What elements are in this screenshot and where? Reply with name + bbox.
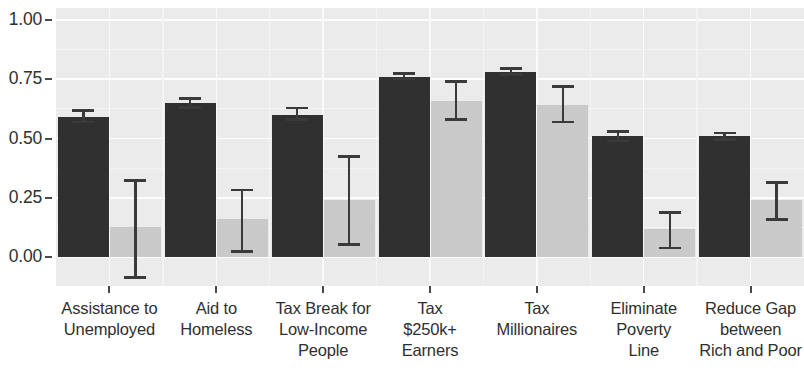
x-tick-mark xyxy=(536,286,538,293)
error-bar-cap-bottom xyxy=(766,218,788,221)
error-bar-cap-top xyxy=(179,97,201,100)
error-bar-dark-5 xyxy=(607,130,629,142)
gridline-vertical-minor xyxy=(269,8,270,286)
error-bar-cap-top xyxy=(714,132,736,135)
error-bar-stem xyxy=(669,211,671,249)
bar-dark-2 xyxy=(272,115,323,258)
y-tick-label-0.00: 0.00 xyxy=(9,249,42,267)
y-axis: 0.000.250.500.751.00 xyxy=(0,0,56,290)
error-bar-light-3 xyxy=(445,80,467,120)
x-tick-label-5: EliminatePovertyLine xyxy=(610,298,677,361)
x-tick-mark xyxy=(429,286,431,293)
x-tick-label-line: Earners xyxy=(402,340,459,361)
x-tick-label-line: Eliminate xyxy=(610,298,677,319)
error-bar-cap-top xyxy=(124,179,146,182)
gridline-vertical-minor xyxy=(162,8,163,286)
x-tick-label-4: TaxMillionaires xyxy=(496,298,577,340)
x-tick-label-line: Tax xyxy=(496,298,577,319)
bar-chart: 0.000.250.500.751.00 Assistance toUnempl… xyxy=(0,0,804,383)
error-bar-cap-bottom xyxy=(179,106,201,109)
x-tick-mark xyxy=(643,286,645,293)
x-tick-label-0: Assistance toUnemployed xyxy=(61,298,157,340)
error-bar-cap-top xyxy=(338,155,360,158)
error-bar-cap-bottom xyxy=(552,121,574,124)
error-bar-cap-bottom xyxy=(72,121,94,124)
error-bar-cap-bottom xyxy=(500,73,522,76)
error-bar-cap-top xyxy=(72,109,94,112)
error-bar-dark-2 xyxy=(286,107,308,121)
x-tick-label-line: Assistance to xyxy=(61,298,157,319)
error-bar-light-0 xyxy=(124,179,146,279)
x-tick-label-line: Reduce Gap xyxy=(699,298,802,319)
x-tick-label-line: Homeless xyxy=(180,319,252,340)
x-tick-label-line: Low-Income xyxy=(276,319,371,340)
x-tick-label-line: between xyxy=(699,319,802,340)
error-bar-stem xyxy=(455,80,457,120)
error-bar-cap-bottom xyxy=(231,250,253,253)
error-bar-light-5 xyxy=(659,211,681,249)
x-tick-label-line: $250k+ xyxy=(402,319,459,340)
gridline-vertical-minor xyxy=(376,8,377,286)
bar-light-3 xyxy=(431,101,482,258)
error-bar-cap-bottom xyxy=(714,138,736,141)
error-bar-cap-top xyxy=(607,130,629,133)
error-bar-dark-6 xyxy=(714,132,736,142)
x-tick-label-line: Line xyxy=(610,340,677,361)
error-bar-light-6 xyxy=(766,181,788,220)
gridline-vertical-minor xyxy=(483,8,484,286)
error-bar-stem xyxy=(134,179,136,279)
bar-dark-6 xyxy=(699,136,750,257)
y-tick-mark xyxy=(45,256,52,258)
y-tick-label-1.00: 1.00 xyxy=(9,11,42,29)
bar-dark-0 xyxy=(58,117,109,257)
error-bar-light-4 xyxy=(552,85,574,123)
x-tick-label-line: Unemployed xyxy=(61,319,157,340)
error-bar-dark-1 xyxy=(179,97,201,109)
x-tick-label-2: Tax Break forLow-IncomePeople xyxy=(276,298,371,361)
bar-light-4 xyxy=(537,105,588,257)
bar-dark-3 xyxy=(379,77,430,258)
y-tick-mark xyxy=(45,19,52,21)
error-bar-cap-bottom xyxy=(286,118,308,121)
x-tick-label-line: Millionaires xyxy=(496,319,577,340)
bar-dark-5 xyxy=(592,136,643,257)
error-bar-dark-0 xyxy=(72,109,94,123)
error-bar-stem xyxy=(562,85,564,123)
error-bar-cap-bottom xyxy=(124,276,146,279)
x-tick-label-6: Reduce GapbetweenRich and Poor xyxy=(699,298,802,361)
error-bar-cap-top xyxy=(659,211,681,214)
y-tick-mark xyxy=(45,138,52,140)
gridline-vertical-minor xyxy=(590,8,591,286)
plot-panel xyxy=(56,8,804,286)
x-tick-mark xyxy=(322,286,324,293)
y-tick-mark xyxy=(45,197,52,199)
error-bar-light-2 xyxy=(338,155,360,245)
y-tick-label-0.75: 0.75 xyxy=(9,71,42,89)
error-bar-cap-top xyxy=(766,181,788,184)
error-bar-cap-top xyxy=(500,67,522,70)
error-bar-cap-bottom xyxy=(659,247,681,250)
x-tick-label-1: Aid toHomeless xyxy=(180,298,252,340)
error-bar-cap-bottom xyxy=(607,140,629,143)
x-tick-label-line: Aid to xyxy=(180,298,252,319)
error-bar-stem xyxy=(241,189,243,253)
error-bar-dark-3 xyxy=(393,72,415,80)
x-tick-mark xyxy=(108,286,110,293)
x-tick-label-line: Tax xyxy=(402,298,459,319)
y-tick-label-0.25: 0.25 xyxy=(9,189,42,207)
error-bar-cap-bottom xyxy=(393,78,415,81)
gridline-vertical-minor xyxy=(696,8,697,286)
error-bar-cap-top xyxy=(286,107,308,110)
error-bar-light-1 xyxy=(231,189,253,253)
x-tick-mark xyxy=(750,286,752,293)
error-bar-stem xyxy=(775,181,777,220)
x-tick-label-line: Tax Break for xyxy=(276,298,371,319)
x-axis: Assistance toUnemployedAid toHomelessTax… xyxy=(56,286,804,383)
error-bar-stem xyxy=(348,155,350,245)
x-tick-label-line: Poverty xyxy=(610,319,677,340)
y-tick-label-0.50: 0.50 xyxy=(9,130,42,148)
x-tick-label-line: Rich and Poor xyxy=(699,340,802,361)
error-bar-cap-top xyxy=(393,72,415,75)
bar-dark-4 xyxy=(485,72,536,257)
error-bar-dark-4 xyxy=(500,67,522,75)
